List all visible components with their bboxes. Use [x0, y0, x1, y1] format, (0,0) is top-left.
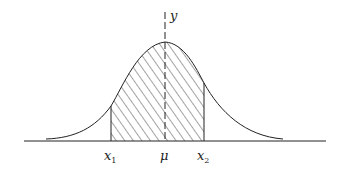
- normal-curve-diagram: y x1 μ x2: [0, 0, 346, 171]
- shaded-area: [100, 30, 220, 145]
- x1-label: x1: [104, 148, 116, 165]
- mu-label: μ: [160, 148, 168, 163]
- y-axis-label: y: [169, 8, 178, 23]
- x2-label: x2: [197, 148, 209, 165]
